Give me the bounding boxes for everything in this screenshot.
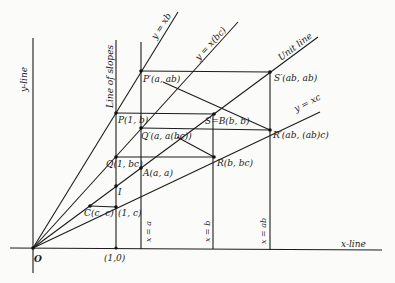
horizontal-P-S [116,113,214,114]
label-C: C(c, c) [84,208,114,218]
label-R: R(b, bc) [216,158,254,168]
label-S-prime: S′(ab, ab) [274,73,318,83]
label-P-prime: P′(a, ab) [142,74,181,84]
label-I: I [117,187,122,197]
label-P: P(1, b) [117,115,149,125]
point-Q-prime [139,126,143,130]
x-eq-a-label: x = a [144,221,153,242]
point-origin [31,246,35,250]
point-R [212,155,216,159]
ray-y-eq-xc-label: y = xc [291,92,322,114]
point-P-prime [139,69,143,73]
horizontal-P-prime-S-prime [141,71,270,72]
ray-y-eq-xbc-label: y = x(bc) [192,25,228,63]
unit-line-label: Unit line [276,31,314,63]
label-S-B: S=B(b, b) [205,116,250,126]
label-A: A(a, a) [142,168,173,178]
x-eq-ab-label: x = ab [259,218,268,244]
point-1-0 [114,246,117,249]
origin-label: O [34,254,42,264]
label-Q: Q(1, bc) [106,159,143,169]
horizontal-C-1c [90,206,116,207]
label-R-prime: R′(ab, (ab)c) [272,130,329,140]
label-Q-prime: Q′(a, a(bc)) [141,131,192,141]
point-R-prime [268,128,272,132]
associativity-construction-diagram: y-line x-line O (1,0) Line of slopes x =… [0,0,395,283]
line-of-slopes-label: Line of slopes [105,45,115,109]
x-eq-b-label: x = b [203,221,212,242]
x-line-label: x-line [341,239,366,249]
unit-point-label: (1,0) [104,253,126,263]
point-S-prime [268,70,272,74]
horizontal-Q-prime-R-prime [141,128,270,130]
y-line-label: y-line [19,67,29,93]
x-axis-line [10,248,382,250]
ray-unit-line [33,37,318,248]
diagram-svg: y-line x-line O (1,0) Line of slopes x =… [0,0,395,283]
label-1-c: (1, c) [118,208,142,218]
